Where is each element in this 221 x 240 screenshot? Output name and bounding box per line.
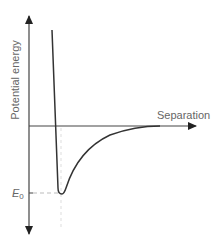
x-axis-label: Separation xyxy=(157,109,210,121)
y-axis-label: Potential energy xyxy=(9,40,21,120)
e0-label: E0 xyxy=(12,187,24,201)
potential-curve xyxy=(52,30,160,194)
potential-energy-diagram: Potential energy Separation E0 xyxy=(0,0,221,240)
